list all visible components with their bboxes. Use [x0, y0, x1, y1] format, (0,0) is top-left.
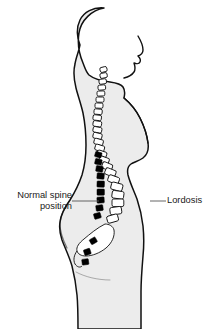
label-normal-spine-line1: Normal spine: [4, 190, 72, 201]
vertebra-l3: [112, 199, 124, 207]
normal-marker-5: [97, 181, 105, 187]
normal-marker-6: [97, 189, 104, 195]
vertebra-t2: [93, 115, 102, 121]
vertebra-c2: [100, 72, 108, 78]
vertebra-c6: [96, 97, 104, 102]
vertebra-c5: [97, 91, 105, 96]
vertebra-c1: [99, 66, 107, 73]
label-normal-spine-line2: position: [4, 201, 72, 212]
normal-marker-3: [96, 165, 104, 172]
normal-marker-8: [96, 205, 104, 212]
vertebra-c7: [95, 103, 103, 109]
vertebra-c3: [99, 79, 107, 85]
normal-marker-4: [97, 173, 105, 180]
spine-lordosis-illustration: [0, 0, 212, 329]
vertebra-t1: [94, 109, 103, 115]
vertebra-l2: [112, 190, 125, 199]
normal-marker-7: [97, 197, 105, 203]
vertebra-c4: [98, 85, 106, 91]
normal-marker-2: [94, 158, 102, 165]
label-normal-spine-position: Normal spine position: [4, 190, 72, 212]
normal-marker-12: [82, 259, 89, 266]
face-profile-icon: [124, 36, 143, 78]
label-lordosis: Lordosis: [167, 195, 202, 206]
